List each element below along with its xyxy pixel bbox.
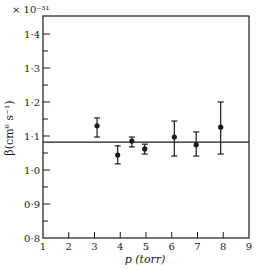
y-multiplier-label: × 10⁻³¹ <box>12 4 50 15</box>
data-point <box>218 102 224 154</box>
x-tick-label: 4 <box>117 241 123 252</box>
y-tick-label: 1·4 <box>24 29 40 40</box>
x-axis-label: p (torr) <box>125 253 166 266</box>
data-point <box>115 146 121 164</box>
point-marker <box>129 139 134 144</box>
point-marker <box>172 134 177 139</box>
data-points <box>94 102 224 164</box>
data-point <box>94 118 100 137</box>
x-tick-label: 8 <box>220 241 226 252</box>
x-tick-label: 6 <box>169 241 175 252</box>
point-marker <box>194 142 199 147</box>
y-tick-label: 1·1 <box>24 131 40 142</box>
data-point <box>171 121 177 156</box>
x-tick-label: 1 <box>40 241 46 252</box>
x-axis-ticks: 123456789 <box>40 232 252 252</box>
x-tick-label: 3 <box>91 241 97 252</box>
data-point <box>129 137 135 147</box>
x-tick-label: 2 <box>66 241 72 252</box>
y-axis-ticks: 0·80·91·01·11·21·31·4 <box>24 29 50 244</box>
point-marker <box>115 152 120 157</box>
point-marker <box>142 146 147 151</box>
y-tick-label: 1·2 <box>24 97 40 108</box>
point-marker <box>94 123 99 128</box>
x-tick-label: 9 <box>246 241 252 252</box>
point-marker <box>218 125 223 130</box>
y-tick-label: 0·9 <box>24 199 40 210</box>
chart: 123456789 0·80·91·01·11·21·31·4 × 10⁻³¹ … <box>0 0 258 270</box>
y-tick-label: 0·8 <box>24 233 40 244</box>
x-tick-label: 5 <box>143 241 149 252</box>
y-axis-label: β(cm⁶ s⁻¹) <box>3 100 16 155</box>
y-tick-label: 1·3 <box>24 63 40 74</box>
data-point <box>193 132 199 156</box>
data-point <box>142 144 148 154</box>
x-tick-label: 7 <box>194 241 200 252</box>
y-tick-label: 1·0 <box>24 165 40 176</box>
